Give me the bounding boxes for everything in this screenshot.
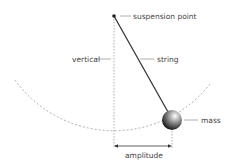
mass-ball <box>162 110 182 130</box>
label-vertical: vertical <box>72 55 100 64</box>
label-mass: mass <box>201 116 221 125</box>
label-suspension-point: suspension point <box>133 12 197 21</box>
pendulum-diagram: suspension point vertical string mass am… <box>0 0 229 167</box>
label-string: string <box>157 55 179 64</box>
suspension-point-dot <box>112 14 116 18</box>
string-line <box>114 16 168 112</box>
label-amplitude: amplitude <box>125 151 163 160</box>
